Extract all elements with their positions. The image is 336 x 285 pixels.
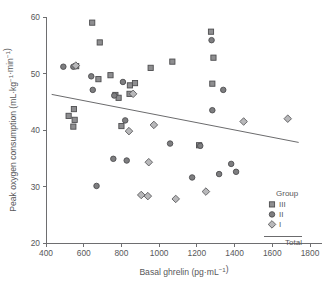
x-tick-label: 1400 bbox=[225, 248, 244, 258]
data-point-square bbox=[71, 124, 76, 129]
data-point-circle bbox=[209, 37, 215, 43]
legend-label-total: Total bbox=[285, 238, 302, 247]
series-I bbox=[72, 62, 291, 203]
y-tick-label: 30 bbox=[31, 182, 41, 192]
data-point-circle bbox=[124, 158, 130, 164]
y-axis-title: Peak oxygen consumption (mL·kg−1·min−1) bbox=[2, 48, 18, 212]
data-point-square bbox=[132, 81, 137, 86]
y-tick-label: 40 bbox=[31, 125, 41, 135]
data-point-square bbox=[71, 106, 76, 111]
legend-marker-III bbox=[269, 202, 274, 207]
x-tick-label: 1600 bbox=[263, 248, 282, 258]
data-point-circle bbox=[210, 107, 216, 113]
data-point-diamond bbox=[125, 127, 133, 135]
x-tick-label: 400 bbox=[39, 248, 53, 258]
data-point-circle bbox=[167, 141, 173, 147]
data-point-circle bbox=[111, 156, 117, 162]
data-point-square bbox=[170, 59, 175, 64]
data-point-square bbox=[108, 73, 113, 78]
figure-container: 203040506040060080010001200140016001800 … bbox=[0, 0, 336, 285]
legend-label-II: II bbox=[279, 210, 283, 219]
data-point-circle bbox=[228, 161, 234, 167]
data-point-square bbox=[208, 29, 213, 34]
data-point-square bbox=[90, 20, 95, 25]
data-point-square bbox=[97, 40, 102, 45]
data-points bbox=[61, 20, 292, 203]
data-point-circle bbox=[189, 175, 195, 181]
data-point-circle bbox=[89, 74, 95, 80]
data-point-circle bbox=[233, 169, 239, 175]
data-point-diamond bbox=[284, 115, 292, 123]
trend-line bbox=[52, 94, 299, 142]
data-point-circle bbox=[112, 93, 118, 99]
data-point-circle bbox=[221, 87, 227, 93]
y-tick-label: 60 bbox=[31, 12, 41, 22]
total-trend-line bbox=[52, 94, 299, 142]
data-point-square bbox=[148, 65, 153, 70]
y-tick-label: 50 bbox=[31, 69, 41, 79]
data-point-square bbox=[210, 81, 215, 86]
legend-marker-II bbox=[269, 212, 275, 218]
data-point-circle bbox=[122, 118, 128, 124]
axis-tick-labels: 203040506040060080010001200140016001800 bbox=[31, 12, 320, 258]
x-tick-label: 600 bbox=[77, 248, 91, 258]
data-point-diamond bbox=[150, 121, 158, 129]
data-point-square bbox=[119, 123, 124, 128]
data-point-diamond bbox=[144, 192, 152, 200]
legend-marker-I bbox=[268, 221, 276, 229]
data-point-diamond bbox=[172, 195, 180, 203]
data-point-circle bbox=[94, 183, 100, 189]
data-point-circle bbox=[61, 64, 67, 70]
series-III bbox=[66, 20, 216, 148]
data-point-square bbox=[96, 77, 101, 82]
data-point-square bbox=[211, 55, 216, 60]
legend-label-I: I bbox=[279, 220, 281, 229]
data-point-square bbox=[127, 83, 132, 88]
x-tick-label: 800 bbox=[114, 248, 128, 258]
y-tick-label: 20 bbox=[31, 238, 41, 248]
legend-label-III: III bbox=[279, 200, 286, 209]
x-tick-label: 1000 bbox=[150, 248, 169, 258]
scatter-plot: 203040506040060080010001200140016001800 … bbox=[0, 0, 336, 285]
data-point-diamond bbox=[137, 191, 145, 199]
legend: GroupIIIIIITotal bbox=[264, 189, 302, 247]
x-tick-label: 1200 bbox=[188, 248, 207, 258]
x-tick-label: 1800 bbox=[301, 248, 320, 258]
data-point-square bbox=[66, 113, 71, 118]
data-point-circle bbox=[216, 171, 222, 177]
data-point-diamond bbox=[240, 118, 248, 126]
data-point-diamond bbox=[145, 158, 153, 166]
data-point-circle bbox=[120, 79, 126, 85]
data-point-circle bbox=[197, 143, 203, 149]
data-point-diamond bbox=[202, 188, 210, 196]
data-point-circle bbox=[90, 87, 96, 93]
x-axis-title: Basal ghrelin (pg·mL−1) bbox=[139, 264, 228, 277]
legend-title: Group bbox=[276, 189, 299, 198]
data-point-square bbox=[72, 117, 77, 122]
